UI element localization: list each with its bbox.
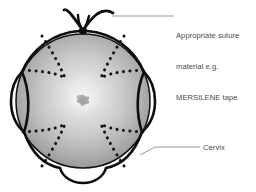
suture-loop-bottom bbox=[60, 168, 106, 183]
figure-canvas: Appropriate suture material e.g. MERSILE… bbox=[0, 0, 256, 192]
suture-label-line-2: material e.g. bbox=[176, 62, 254, 72]
cervix-label: Cervix bbox=[203, 143, 253, 153]
leader-line-cervix bbox=[140, 147, 200, 155]
suture-label-line-1: Appropriate suture bbox=[176, 31, 254, 41]
suture-knot bbox=[79, 28, 87, 35]
suture-label: Appropriate suture material e.g. MERSILE… bbox=[176, 11, 254, 123]
suture-label-line-3: MERSILENE tape bbox=[176, 93, 254, 103]
